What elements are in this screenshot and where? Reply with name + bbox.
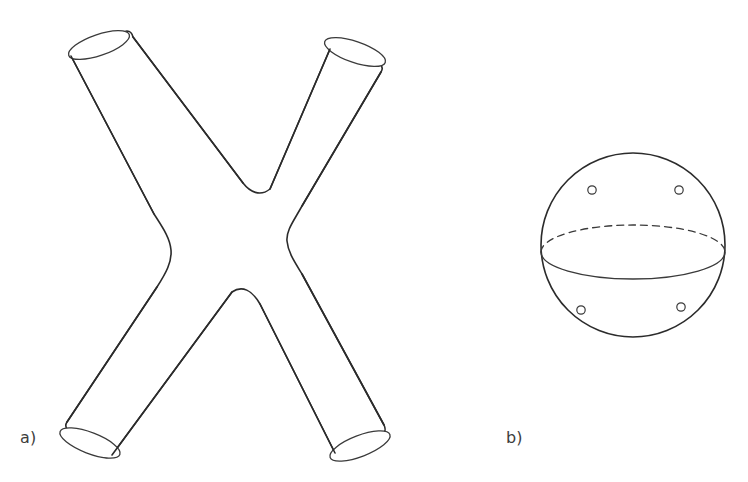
panel-b-punctured-sphere: [541, 153, 725, 337]
figure-root: a) b): [0, 0, 748, 482]
panel-label-b: b): [506, 428, 523, 447]
panel-a-tube-surface: [56, 25, 393, 468]
figure-canvas: [0, 0, 748, 482]
panel-label-a: a): [20, 428, 36, 447]
tube-surface-outline: [66, 31, 385, 458]
sphere-outline: [541, 153, 725, 337]
